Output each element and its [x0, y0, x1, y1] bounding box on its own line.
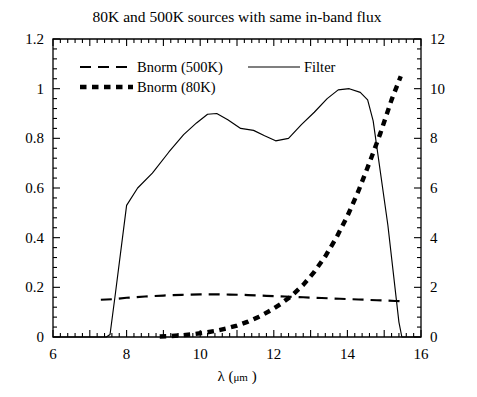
x-axis-tick-labels: 6810121416 [49, 346, 429, 362]
y-axis-left-tick-labels: 00.20.40.60.811.2 [25, 31, 44, 345]
x-tick-label: 16 [414, 346, 430, 362]
svg-text:λ (μm ): λ (μm ) [217, 368, 256, 385]
y-left-tick-label: 0.8 [25, 130, 44, 146]
chart-title: 80K and 500K sources with same in-band f… [93, 8, 382, 25]
xlabel-open-paren: ( [225, 368, 234, 385]
x-tick-label: 14 [340, 346, 356, 362]
chart-legend: Bnorm (500K)Bnorm (80K)Filter [80, 59, 336, 96]
legend-label-filter: Filter [304, 59, 336, 75]
y-right-tick-label: 2 [430, 279, 438, 295]
y-left-tick-label: 0 [37, 329, 45, 345]
y-right-tick-label: 4 [430, 230, 438, 246]
legend-label-bnorm-80k: Bnorm (80K) [137, 79, 216, 96]
y-left-tick-label: 0.2 [25, 279, 44, 295]
x-axis-ticks [53, 39, 421, 337]
plot-frame [53, 39, 421, 337]
y-right-tick-label: 12 [430, 31, 445, 47]
y-left-tick-label: 1 [37, 81, 45, 97]
x-tick-label: 10 [193, 346, 208, 362]
y-left-tick-label: 0.6 [25, 180, 44, 196]
x-axis-title: λ (μm ) [217, 368, 256, 385]
y-axis-left-ticks [53, 39, 60, 337]
legend-label-bnorm-500k: Bnorm (500K) [137, 59, 223, 76]
series-bnorm-80k-curve [160, 76, 401, 336]
xlabel-unit: μm [233, 371, 248, 383]
series-bnorm-500k-curve [101, 294, 405, 301]
chart-svg: 80K and 500K sources with same in-band f… [0, 0, 477, 397]
chart-figure: 80K and 500K sources with same in-band f… [0, 0, 477, 397]
y-left-tick-label: 0.4 [25, 230, 44, 246]
y-right-tick-label: 0 [430, 329, 438, 345]
y-left-tick-label: 1.2 [25, 31, 44, 47]
y-right-tick-label: 10 [430, 81, 445, 97]
y-axis-right-tick-labels: 024681012 [430, 31, 445, 345]
xlabel-close-paren: ) [248, 368, 257, 385]
x-tick-label: 6 [49, 346, 57, 362]
y-right-tick-label: 6 [430, 180, 438, 196]
data-series-layer [53, 76, 421, 337]
y-axis-right-ticks [414, 39, 421, 337]
x-tick-label: 8 [123, 346, 131, 362]
y-right-tick-label: 8 [430, 130, 438, 146]
x-tick-label: 12 [266, 346, 281, 362]
